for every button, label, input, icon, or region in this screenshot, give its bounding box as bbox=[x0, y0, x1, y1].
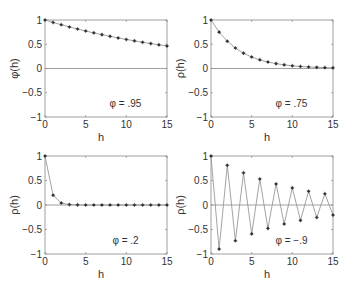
y-tick-label: −0.5 bbox=[188, 224, 208, 235]
acf-line bbox=[211, 156, 333, 249]
y-tick-label: −1 bbox=[31, 249, 43, 260]
acf-line bbox=[45, 156, 167, 205]
acf-line bbox=[45, 20, 167, 46]
x-tick-label: 15 bbox=[161, 119, 173, 130]
y-tick-label: 0 bbox=[202, 200, 208, 211]
x-tick-label: 10 bbox=[121, 119, 133, 130]
data-point-marker bbox=[84, 29, 88, 33]
data-point-marker bbox=[43, 18, 47, 22]
data-point-marker bbox=[225, 163, 229, 167]
y-tick-label: −0.5 bbox=[22, 224, 42, 235]
y-tick-label: 1 bbox=[202, 151, 208, 162]
y-tick-label: 0 bbox=[202, 63, 208, 74]
data-point-marker bbox=[108, 203, 112, 207]
y-axis-label: ρ(h) bbox=[174, 195, 186, 215]
data-point-marker bbox=[51, 20, 55, 24]
y-tick-label: −0.5 bbox=[22, 87, 42, 98]
data-point-marker bbox=[258, 177, 262, 181]
acf-chart-grid: 051015−1−0.500.51φ = .95hφ(h)051015−1−0.… bbox=[0, 0, 353, 287]
x-tick-label: 0 bbox=[42, 256, 48, 267]
x-tick-label: 0 bbox=[208, 256, 214, 267]
y-tick-label: 0.5 bbox=[28, 175, 42, 186]
data-point-marker bbox=[298, 64, 302, 68]
x-tick-label: 10 bbox=[121, 256, 133, 267]
x-tick-label: 0 bbox=[208, 119, 214, 130]
data-point-marker bbox=[92, 203, 96, 207]
data-point-marker bbox=[141, 40, 145, 44]
x-axis-label: h bbox=[264, 131, 270, 143]
panel-3: 051015−1−0.500.51φ = .2hρ(h) bbox=[8, 151, 173, 281]
phi-annotation: φ = .75 bbox=[276, 98, 308, 109]
data-point-marker bbox=[67, 25, 71, 29]
data-point-marker bbox=[92, 31, 96, 35]
y-axis-label: ρ(h) bbox=[174, 59, 186, 79]
data-point-marker bbox=[258, 58, 262, 62]
data-point-marker bbox=[165, 44, 169, 48]
phi-annotation: φ = .95 bbox=[110, 98, 142, 109]
data-point-marker bbox=[157, 203, 161, 207]
data-point-marker bbox=[274, 62, 278, 66]
y-tick-label: 0 bbox=[36, 200, 42, 211]
data-point-marker bbox=[290, 186, 294, 190]
data-point-marker bbox=[76, 203, 80, 207]
data-point-marker bbox=[250, 232, 254, 236]
data-point-marker bbox=[298, 218, 302, 222]
data-point-marker bbox=[116, 203, 120, 207]
x-tick-label: 5 bbox=[249, 256, 255, 267]
x-axis-label: h bbox=[264, 268, 270, 280]
data-point-marker bbox=[116, 36, 120, 40]
data-point-marker bbox=[266, 60, 270, 64]
data-point-marker bbox=[43, 154, 47, 158]
x-tick-label: 5 bbox=[249, 119, 255, 130]
data-point-marker bbox=[282, 222, 286, 226]
data-point-marker bbox=[132, 203, 136, 207]
data-point-marker bbox=[323, 66, 327, 70]
x-tick-label: 5 bbox=[83, 256, 89, 267]
data-point-marker bbox=[165, 203, 169, 207]
data-point-marker bbox=[242, 171, 246, 175]
data-point-marker bbox=[315, 215, 319, 219]
y-tick-label: 0.5 bbox=[28, 39, 42, 50]
y-tick-label: 0.5 bbox=[194, 39, 208, 50]
data-point-marker bbox=[217, 247, 221, 251]
data-point-marker bbox=[76, 27, 80, 31]
acf-line bbox=[211, 20, 333, 68]
data-point-marker bbox=[331, 66, 335, 70]
y-tick-label: −1 bbox=[31, 112, 43, 123]
x-axis-label: h bbox=[98, 131, 104, 143]
data-point-marker bbox=[323, 192, 327, 196]
phi-annotation: φ = −.9 bbox=[275, 235, 307, 246]
data-point-marker bbox=[141, 203, 145, 207]
panel-2: 051015−1−0.500.51φ = .75hρ(h) bbox=[174, 15, 339, 144]
phi-annotation: φ = .2 bbox=[112, 235, 139, 246]
data-point-marker bbox=[242, 51, 246, 55]
y-axis-label: φ(h) bbox=[8, 58, 20, 79]
data-point-marker bbox=[132, 39, 136, 43]
data-point-marker bbox=[124, 37, 128, 41]
data-point-marker bbox=[233, 239, 237, 243]
data-point-marker bbox=[209, 154, 213, 158]
data-point-marker bbox=[84, 203, 88, 207]
data-point-marker bbox=[250, 55, 254, 59]
x-tick-label: 5 bbox=[83, 119, 89, 130]
x-tick-label: 15 bbox=[327, 256, 339, 267]
data-point-marker bbox=[266, 226, 270, 230]
data-point-marker bbox=[307, 189, 311, 193]
panel-1: 051015−1−0.500.51φ = .95hφ(h) bbox=[8, 15, 173, 144]
data-point-marker bbox=[274, 182, 278, 186]
y-tick-label: 1 bbox=[202, 15, 208, 26]
y-tick-label: −1 bbox=[197, 112, 209, 123]
y-tick-label: 1 bbox=[36, 151, 42, 162]
y-tick-label: 0 bbox=[36, 63, 42, 74]
x-tick-label: 10 bbox=[287, 119, 299, 130]
data-point-marker bbox=[331, 213, 335, 217]
data-point-marker bbox=[124, 203, 128, 207]
data-point-marker bbox=[108, 34, 112, 38]
data-point-marker bbox=[149, 203, 153, 207]
y-tick-label: −0.5 bbox=[188, 87, 208, 98]
data-point-marker bbox=[100, 203, 104, 207]
data-point-marker bbox=[100, 33, 104, 37]
y-tick-label: 1 bbox=[36, 15, 42, 26]
data-point-marker bbox=[157, 43, 161, 47]
data-point-marker bbox=[67, 203, 71, 207]
